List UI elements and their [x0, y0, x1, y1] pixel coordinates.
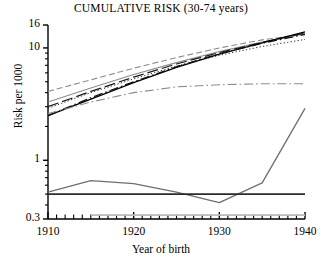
series-upper-dotted-black — [48, 39, 305, 108]
series-plateau-dashdot-gray — [48, 84, 305, 114]
x-tick-label: 1930 — [196, 225, 242, 237]
chart-root: CUMULATIVE RISK (30-74 years) Risk per 1… — [0, 0, 322, 261]
x-tick-label: 1920 — [111, 225, 157, 237]
series-upper-longdash-black — [48, 33, 305, 107]
plot-area — [0, 0, 322, 261]
x-tick-label: 1940 — [282, 225, 322, 237]
y-tick-label: 1 — [0, 152, 40, 164]
y-tick-label: 0.3 — [0, 211, 40, 223]
series-lower-wiggly-gray — [48, 108, 305, 202]
x-tick-label: 1910 — [25, 225, 71, 237]
y-tick-label: 10 — [0, 40, 40, 52]
y-tick-label: 16 — [0, 17, 40, 29]
